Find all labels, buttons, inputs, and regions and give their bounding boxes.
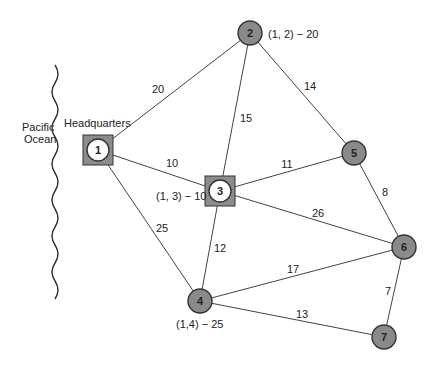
edge-weight-label: 7 [385,285,391,297]
node-5: 5 [342,141,366,165]
svg-text:6: 6 [401,241,407,253]
edge-4-7 [200,301,384,337]
edge-3-6 [220,191,404,247]
edge-weight-label: 26 [312,207,324,219]
node-1: 1 [83,135,113,165]
node-6: 6 [392,235,416,259]
network-diagram: Pacific Ocean Headquarters 2010251514112… [0,0,440,365]
edge-2-5 [250,33,354,153]
edge-weight-label: 13 [296,308,308,320]
edge-1-4 [98,150,200,301]
edge-weight-label: 20 [152,83,164,95]
edge-1-3 [98,150,220,191]
svg-text:3: 3 [217,185,223,197]
coastline-wavy-line [52,65,58,299]
node-2: 2 [238,21,262,45]
path-annotation: (1, 3) − 10 [156,190,206,202]
node-7: 7 [372,325,396,349]
ocean-label-line1: Pacific [22,121,55,133]
svg-text:2: 2 [247,27,253,39]
svg-text:5: 5 [351,147,357,159]
edge-weight-label: 11 [281,158,292,170]
svg-text:7: 7 [381,331,387,343]
edge-weight-label: 25 [156,222,168,234]
edge-weight-label: 15 [240,112,252,124]
edge-weight-label: 10 [166,157,178,169]
edge-weight-label: 17 [287,263,299,275]
edge-weight-label: 12 [214,242,226,254]
annotations-layer: (1, 2) − 20(1, 3) − 10(1,4) − 25 [156,28,318,330]
edge-1-2 [98,33,250,150]
path-annotation: (1, 2) − 20 [268,28,318,40]
headquarters-label: Headquarters [64,117,131,129]
edge-weight-label: 14 [304,80,316,92]
node-4: 4 [188,289,212,313]
svg-text:1: 1 [95,144,101,156]
edge-weight-label: 8 [382,186,388,198]
ocean-label-line2: Ocean [24,133,56,145]
edge-5-6 [354,153,404,247]
node-3: 3 [205,176,235,206]
edge-4-6 [200,247,404,301]
svg-text:4: 4 [197,295,204,307]
nodes-layer: 1234567 [83,21,416,349]
diagram-canvas: Pacific Ocean Headquarters 2010251514112… [0,0,440,365]
path-annotation: (1,4) − 25 [176,318,223,330]
edges-layer [98,33,404,337]
